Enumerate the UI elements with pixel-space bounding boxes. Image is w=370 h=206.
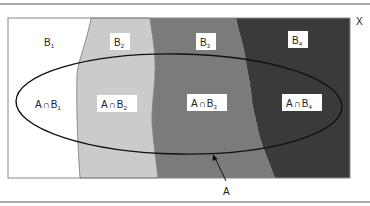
partition-diagram: B1 B2 B3 B4 A∩B1 A∩B2 A∩B3 A∩B4 X A bbox=[0, 0, 370, 206]
label-b2: B2 bbox=[110, 33, 130, 50]
label-b4: B4 bbox=[288, 31, 308, 48]
label-b3: B3 bbox=[196, 33, 216, 50]
label-a-cap-b2: A∩B2 bbox=[97, 95, 137, 112]
label-a-cap-b4: A∩B4 bbox=[282, 94, 322, 111]
set-a-label: A bbox=[223, 186, 230, 197]
label-a-cap-b3: A∩B3 bbox=[187, 94, 227, 111]
universe-label: X bbox=[356, 16, 363, 27]
